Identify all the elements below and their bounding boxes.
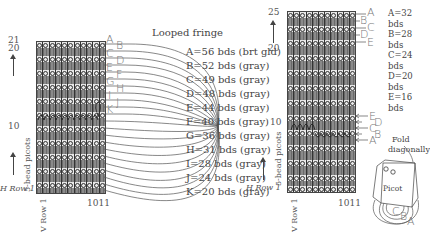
legend-b: B=28 bds xyxy=(388,29,430,50)
letter-a: A xyxy=(407,215,415,228)
picot-tag: Picot xyxy=(383,184,402,193)
legend-c: C=24 bds xyxy=(388,50,430,71)
legend-e: E=16 bds xyxy=(388,92,430,113)
letter-a: A xyxy=(369,134,377,147)
legend-a: A=32 bds xyxy=(388,8,430,29)
diagonally-label: diagonally xyxy=(388,145,430,154)
letter-c: C xyxy=(392,205,400,218)
right-legend: A=32 bds B=28 bds C=24 bds D=20 bds E=16… xyxy=(388,8,430,113)
fold-label: Fold xyxy=(392,135,410,144)
letter-a: A xyxy=(367,6,375,19)
letter-e: E xyxy=(367,36,374,49)
legend-d: D=20 bds xyxy=(388,71,430,92)
